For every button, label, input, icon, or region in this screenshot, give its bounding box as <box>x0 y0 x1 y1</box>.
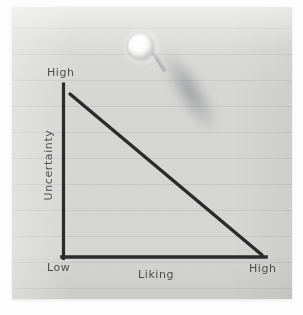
data-line-uncertainty-vs-liking <box>70 94 262 255</box>
y-axis-tick-label-high: High <box>47 66 75 79</box>
sticky-note-scene: High Uncertainty Low High Liking <box>0 0 303 315</box>
y-axis-title: Uncertainty <box>42 130 55 201</box>
x-axis-tick-label-high: High <box>249 262 277 275</box>
x-axis-title: Liking <box>138 268 174 281</box>
x-axis-tick-label-low: Low <box>47 261 70 274</box>
